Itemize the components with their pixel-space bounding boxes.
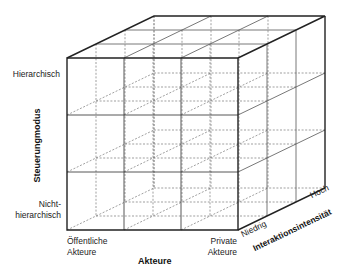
x-axis-low-label-line1: Öffentliche — [67, 236, 107, 247]
x-axis-low-label-line2: Akteure — [67, 247, 96, 258]
y-axis-low-label-line2: hierarchisch — [0, 210, 61, 221]
top-face-grid — [96, 16, 296, 58]
y-axis-high-label: Hierarchisch — [4, 69, 60, 80]
x-axis-title: Akteure — [138, 256, 172, 267]
x-axis-high-label-line2: Akteure — [190, 247, 237, 258]
y-axis-low-label-line1: Nicht- — [0, 199, 61, 210]
x-axis-high-label-line1: Private — [190, 236, 237, 247]
hidden-grid-lines — [67, 16, 325, 230]
y-axis-title: Steuerungmodus — [32, 101, 43, 191]
cube-outline — [67, 16, 325, 230]
